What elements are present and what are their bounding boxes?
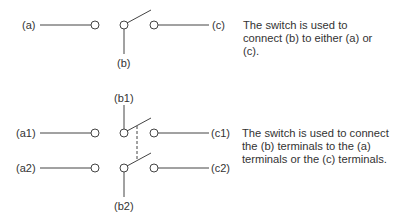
- label-b2: (b2): [114, 200, 134, 212]
- terminal-c1: [150, 129, 158, 137]
- terminal-a2: [91, 164, 99, 172]
- label-c: (c): [212, 19, 225, 31]
- dpdt-switch: [40, 105, 209, 197]
- description-2: The switch is used to connect the (b) te…: [242, 127, 402, 166]
- label-a: (a): [22, 19, 35, 31]
- label-a1: (a1): [16, 127, 36, 139]
- label-c2: (c2): [211, 162, 230, 174]
- terminal-c2: [150, 164, 158, 172]
- terminal-b2: [120, 164, 128, 172]
- label-c1: (c1): [211, 127, 230, 139]
- terminal-a1: [91, 129, 99, 137]
- switch-arm-1: [127, 118, 151, 131]
- switch-arm: [127, 10, 151, 23]
- label-b1: (b1): [114, 92, 134, 104]
- label-b: (b): [117, 57, 130, 69]
- label-a2: (a2): [16, 162, 36, 174]
- terminal-a: [91, 21, 99, 29]
- terminal-c: [150, 21, 158, 29]
- description-1: The switch is used to connect (b) to eit…: [243, 19, 383, 58]
- spdt-switch: [40, 10, 209, 54]
- switch-arm-2: [127, 153, 151, 166]
- terminal-b1: [120, 129, 128, 137]
- terminal-b: [120, 21, 128, 29]
